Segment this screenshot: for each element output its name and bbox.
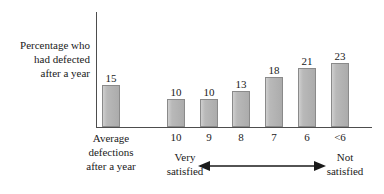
bar-value-label: 21: [289, 55, 325, 67]
bar: [265, 77, 283, 127]
double-arrow-icon: [198, 158, 326, 174]
y-axis-label-line-3: after a year: [0, 66, 90, 80]
bar: [298, 68, 316, 127]
bar: [200, 99, 218, 127]
bar: [167, 99, 185, 127]
bar-group: 21: [298, 68, 316, 127]
category-label-average-defections: Average defections after a year: [71, 131, 151, 173]
bar-value-label: 23: [322, 50, 358, 62]
bar-group: 18: [265, 77, 283, 127]
y-axis-label: Percentage who had defected after a year: [0, 38, 90, 80]
y-axis-label-line-2: had defected: [0, 52, 90, 66]
category-label-line-1: Average: [71, 131, 151, 145]
bar-group: 10: [167, 99, 185, 127]
category-label-line-2: defections: [71, 145, 151, 159]
plot-area: 15 10 10 13 18 21 23: [96, 12, 372, 127]
y-axis-label-line-1: Percentage who: [0, 38, 90, 52]
chart-figure: Percentage who had defected after a year…: [0, 0, 384, 194]
bar-group: 23: [331, 63, 349, 127]
x-axis-line: [96, 127, 372, 128]
bar-group: 10: [200, 99, 218, 127]
bar: [232, 91, 250, 127]
bar-value-label: 13: [223, 78, 259, 90]
bar-value-label: 18: [256, 64, 292, 76]
bar-group: 13: [232, 91, 250, 127]
bar-group: 15: [102, 85, 120, 127]
bar-value-label: 15: [93, 72, 129, 84]
bar: [102, 85, 120, 127]
bar-value-label: 10: [158, 86, 194, 98]
bar-value-label: 10: [191, 86, 227, 98]
bar: [331, 63, 349, 127]
category-label-line-3: after a year: [71, 159, 151, 173]
x-tick-label: <6: [320, 131, 360, 144]
